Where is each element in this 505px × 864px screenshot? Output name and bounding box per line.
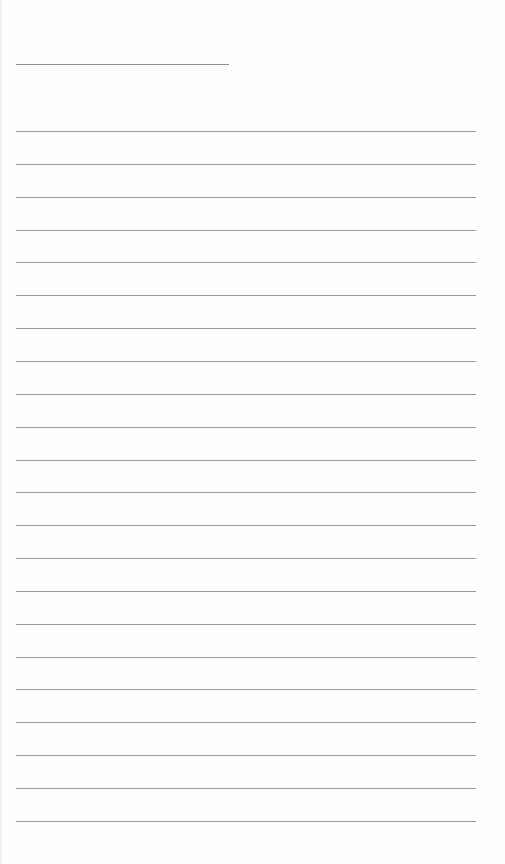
ruled-line	[16, 689, 476, 690]
ruled-line	[16, 361, 476, 362]
ruled-line	[16, 624, 476, 625]
ruled-line	[16, 492, 476, 493]
lined-paper-page	[0, 0, 505, 864]
ruled-line	[16, 197, 476, 198]
ruled-line	[16, 460, 476, 461]
ruled-line	[16, 657, 476, 658]
page-edge-shadow	[0, 0, 3, 864]
ruled-line	[16, 262, 476, 263]
ruled-line	[16, 525, 476, 526]
ruled-line	[16, 230, 476, 231]
ruled-line	[16, 295, 476, 296]
ruled-line	[16, 328, 476, 329]
ruled-line	[16, 755, 476, 756]
ruled-line	[16, 821, 476, 822]
ruled-line	[16, 427, 476, 428]
ruled-line	[16, 164, 476, 165]
ruled-line	[16, 788, 476, 789]
ruled-line	[16, 394, 476, 395]
ruled-line	[16, 591, 476, 592]
header-title-line	[16, 64, 229, 65]
ruled-line	[16, 131, 476, 132]
ruled-line	[16, 722, 476, 723]
ruled-line	[16, 558, 476, 559]
